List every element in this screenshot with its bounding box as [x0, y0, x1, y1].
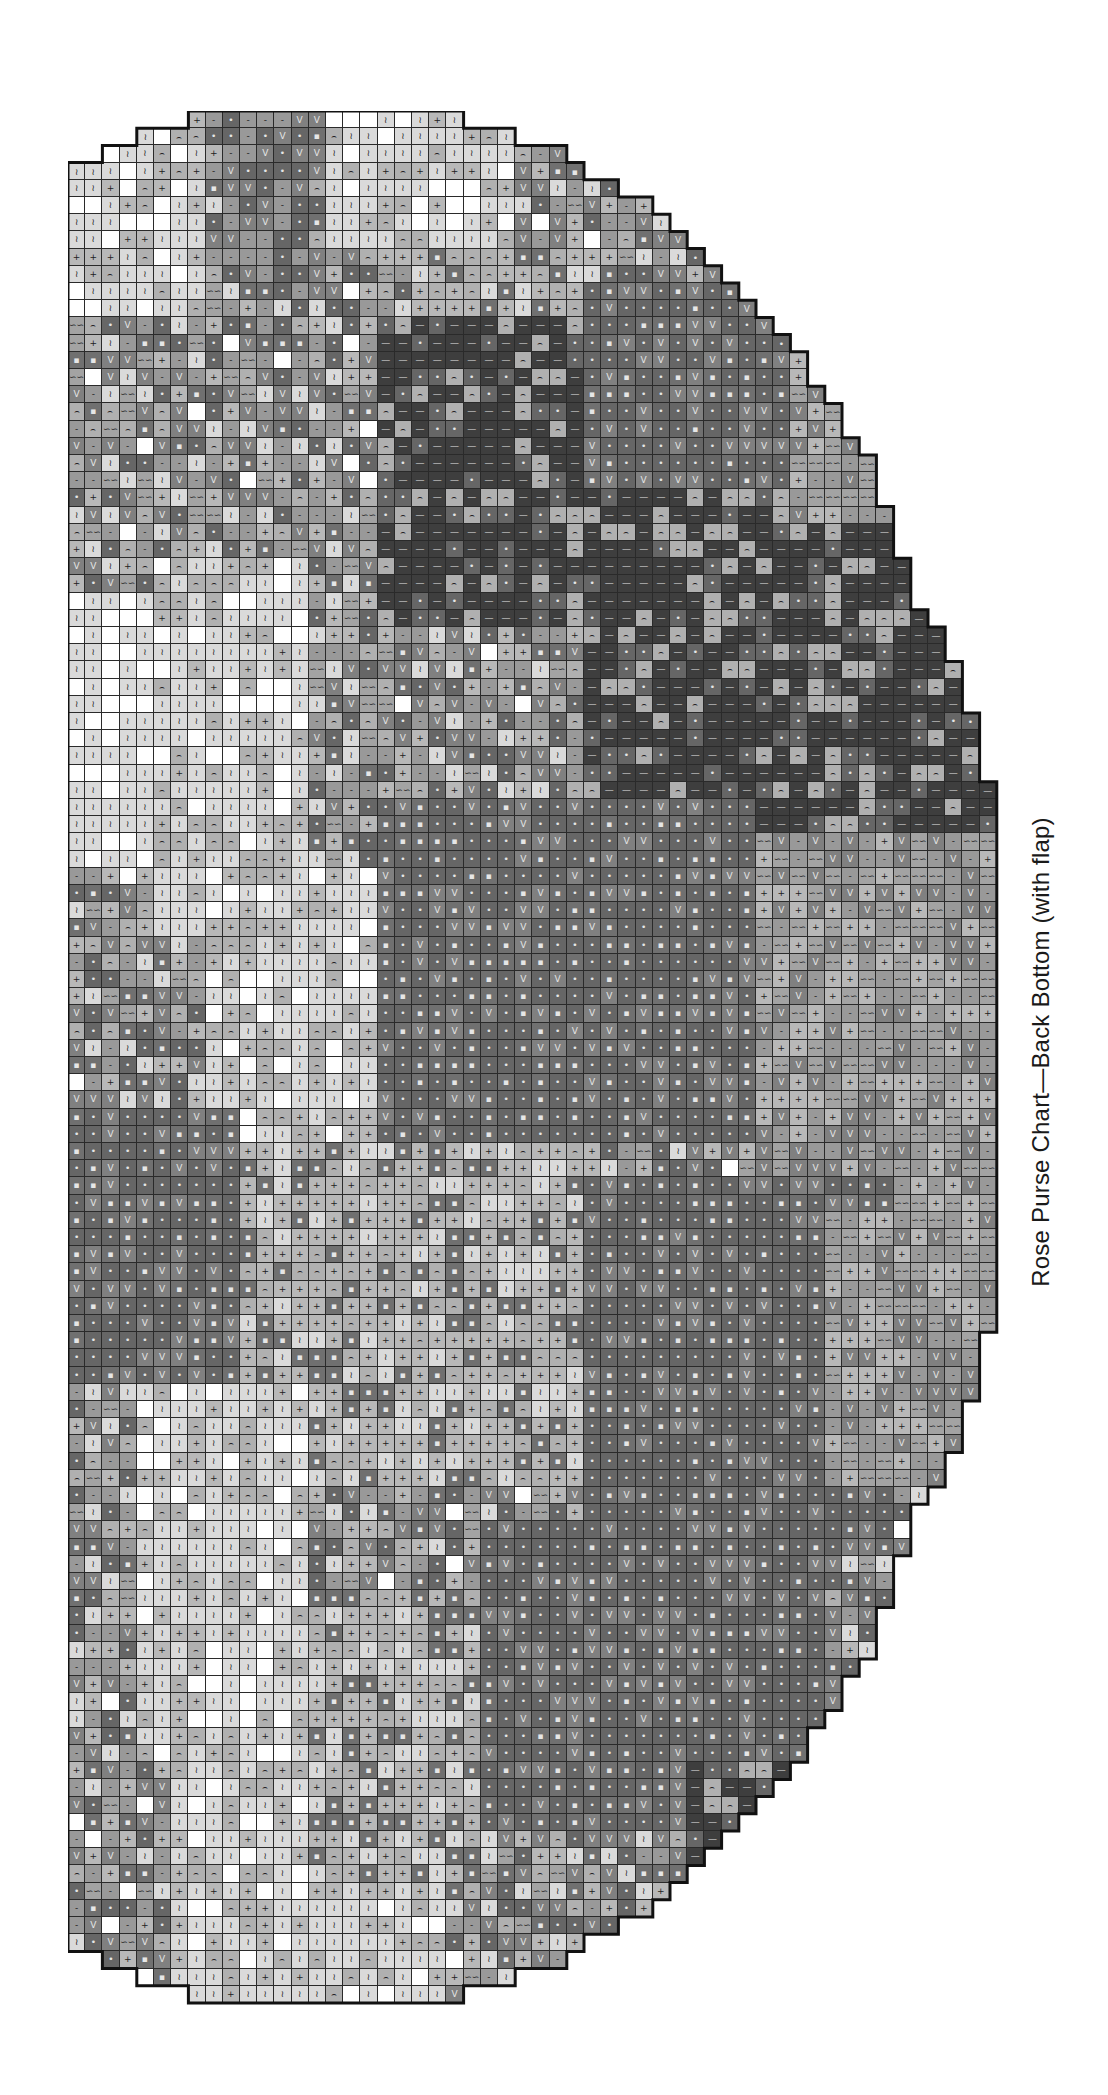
- chart-cell: •: [481, 1040, 498, 1057]
- chart-cell: ⌢: [188, 1418, 205, 1435]
- chart-cell: ≀: [395, 1693, 412, 1710]
- chart-cell: •: [825, 1539, 842, 1556]
- chart-cell: —: [808, 765, 825, 782]
- chart-cell: —: [429, 524, 446, 541]
- chart-cell: ≀: [326, 214, 343, 231]
- chart-cell: V: [808, 1384, 825, 1401]
- chart-cell: •: [601, 1556, 618, 1573]
- chart-cell: -: [206, 455, 223, 472]
- chart-cell: •: [481, 782, 498, 799]
- chart-cell: ≀: [240, 1023, 257, 1040]
- chart-cell: ▪: [446, 1263, 463, 1280]
- chart-cell: ⌢: [464, 610, 481, 627]
- chart-cell: •: [395, 1005, 412, 1022]
- chart-cell: V: [412, 1504, 429, 1521]
- chart-cell: ≀: [498, 1315, 515, 1332]
- chart-cell: ▪: [68, 1212, 85, 1229]
- chart-cell: •: [618, 644, 635, 661]
- chart-cell: —: [739, 696, 756, 713]
- chart-cell: ≀: [257, 507, 274, 524]
- chart-cell: ▪: [704, 1625, 721, 1642]
- chart-cell: ⌢: [378, 1969, 395, 1986]
- chart-cell: ▪: [85, 1057, 102, 1074]
- chart-cell: ▪: [601, 1487, 618, 1504]
- chart-cell: V: [120, 1625, 137, 1642]
- chart-cell: •: [412, 679, 429, 696]
- chart-cell: +: [171, 954, 188, 971]
- chart-cell: ≀: [154, 1693, 171, 1710]
- chart-cell: [274, 799, 291, 816]
- chart-cell: •: [550, 1745, 567, 1762]
- chart-cell: ▪: [687, 1091, 704, 1108]
- chart-cell: V: [756, 1143, 773, 1160]
- chart-cell: ⌢: [429, 1676, 446, 1693]
- chart-cell: •: [481, 937, 498, 954]
- chart-cell: ▪: [481, 1091, 498, 1108]
- chart-cell: [360, 919, 377, 936]
- chart-cell: ∽∽: [532, 1883, 549, 1900]
- chart-cell: +: [446, 782, 463, 799]
- chart-cell: ⌢: [274, 1951, 291, 1968]
- chart-cell: [137, 300, 154, 317]
- chart-cell: ≀: [257, 1435, 274, 1452]
- chart-cell: ▪: [68, 352, 85, 369]
- chart-cell: +: [790, 1109, 807, 1126]
- chart-cell: ∽∽: [120, 1005, 137, 1022]
- chart-cell: V: [550, 679, 567, 696]
- chart-cell: •: [653, 472, 670, 489]
- chart-cell: V: [223, 231, 240, 248]
- chart-cell: •: [481, 747, 498, 764]
- chart-cell: +: [360, 1401, 377, 1418]
- chart-cell: +: [842, 919, 859, 936]
- chart-cell: •: [653, 1332, 670, 1349]
- chart-cell: ≀: [395, 1986, 412, 2003]
- chart-cell: +: [257, 1246, 274, 1263]
- chart-cell: ▪: [550, 644, 567, 661]
- chart-cell: —: [773, 558, 790, 575]
- chart-cell: V: [722, 1556, 739, 1573]
- chart-cell: •: [567, 1521, 584, 1538]
- chart-cell: •: [188, 438, 205, 455]
- chart-cell: -: [825, 833, 842, 850]
- chart-cell: •: [481, 1074, 498, 1091]
- chart-cell: -: [85, 1711, 102, 1728]
- chart-cell: [137, 1401, 154, 1418]
- chart-cell: -: [859, 507, 876, 524]
- chart-cell: •: [274, 231, 291, 248]
- chart-cell: +: [102, 868, 119, 885]
- chart-cell: V: [223, 163, 240, 180]
- chart-cell: +: [309, 524, 326, 541]
- chart-cell: V: [102, 1539, 119, 1556]
- chart-cell: ∽∽: [894, 1160, 911, 1177]
- chart-cell: •: [601, 1298, 618, 1315]
- chart-cell: +: [481, 1229, 498, 1246]
- chart-cell: +: [343, 1625, 360, 1642]
- chart-cell: ≀: [188, 1607, 205, 1624]
- chart-cell: ⌢: [395, 1848, 412, 1865]
- chart-cell: V: [498, 1625, 515, 1642]
- chart-cell: ≀: [206, 799, 223, 816]
- chart-cell: •: [120, 1109, 137, 1126]
- chart-cell: ≀: [223, 782, 240, 799]
- chart-cell: ▪: [309, 1539, 326, 1556]
- chart-cell: +: [378, 1177, 395, 1194]
- chart-cell: •: [773, 1745, 790, 1762]
- chart-cell: +: [894, 1418, 911, 1435]
- chart-cell: +: [790, 1023, 807, 1040]
- chart-cell: •: [584, 971, 601, 988]
- chart-cell: ≀: [429, 1229, 446, 1246]
- chart-cell: ⌢: [137, 507, 154, 524]
- chart-cell: •: [687, 1109, 704, 1126]
- chart-cell: -: [102, 1057, 119, 1074]
- chart-cell: V: [412, 954, 429, 971]
- chart-cell: •: [773, 472, 790, 489]
- chart-cell: ▪: [395, 1023, 412, 1040]
- chart-cell: +: [206, 919, 223, 936]
- chart-cell: -: [257, 403, 274, 420]
- chart-cell: •: [773, 335, 790, 352]
- chart-cell: +: [154, 610, 171, 627]
- chart-cell: ⌢: [223, 1900, 240, 1917]
- chart-cell: ▪: [790, 1745, 807, 1762]
- chart-cell: •: [687, 816, 704, 833]
- chart-cell: [446, 214, 463, 231]
